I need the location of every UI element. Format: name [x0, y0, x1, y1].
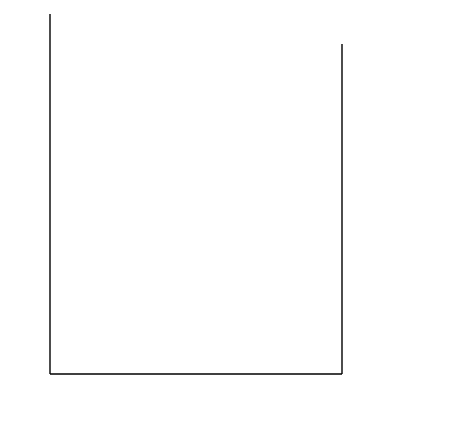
chart-plot-area — [0, 0, 455, 426]
figure-container — [0, 0, 455, 426]
chart-axes — [50, 14, 342, 374]
